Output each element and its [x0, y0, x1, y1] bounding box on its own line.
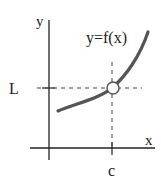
limit-diagram: y y=f(x) L x c	[0, 0, 161, 190]
x-axis-label: x	[145, 132, 153, 148]
point-c-label: c	[108, 162, 115, 179]
limit-L-label: L	[9, 80, 19, 97]
open-circle-hole	[107, 82, 119, 94]
y-axis-label: y	[36, 13, 44, 29]
curve-label: y=f(x)	[86, 29, 127, 47]
